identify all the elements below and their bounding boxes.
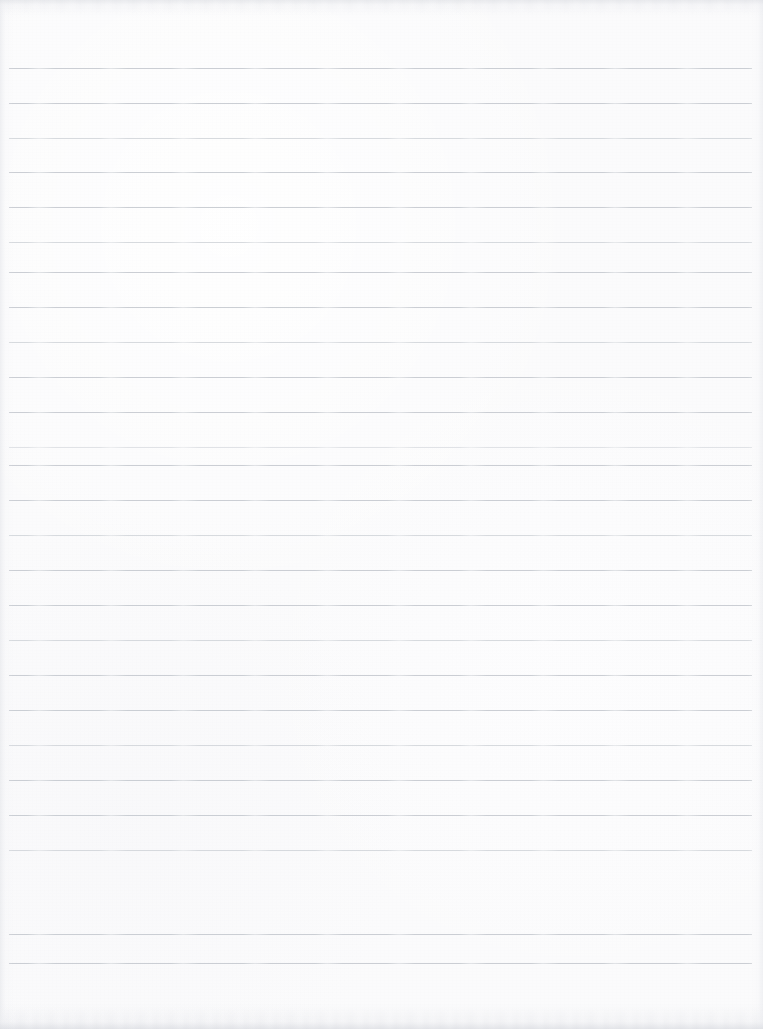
scanned-page [0,0,763,1029]
ruled-line [9,934,752,935]
ruled-line [9,675,752,676]
ruled-line [9,850,752,851]
ruled-line [9,745,752,746]
ruled-line [9,68,752,69]
ruled-line [9,815,752,816]
ruled-line [9,242,752,243]
ruled-line [9,447,752,448]
ruled-line [9,272,752,273]
ruled-line [9,138,752,139]
ruled-line [9,570,752,571]
ruled-line [9,103,752,104]
ruled-line [9,500,752,501]
ruled-line-layer [0,0,763,1029]
ruled-line [9,342,752,343]
ruled-line [9,605,752,606]
ruled-line [9,640,752,641]
ruled-line [9,465,752,466]
ruled-line [9,377,752,378]
ruled-line [9,412,752,413]
ruled-line [9,307,752,308]
ruled-line [9,780,752,781]
ruled-line [9,535,752,536]
ruled-line [9,710,752,711]
ruled-line [9,207,752,208]
ruled-line [9,963,752,964]
ruled-line [9,172,752,173]
